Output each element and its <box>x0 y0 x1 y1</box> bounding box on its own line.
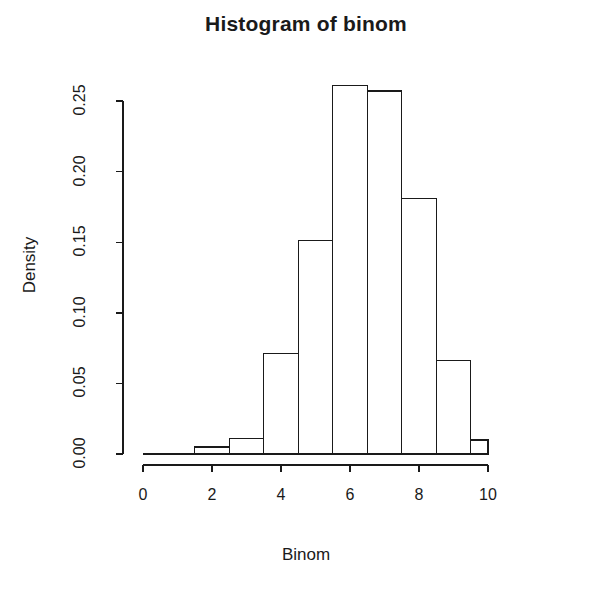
histogram-bar <box>367 91 402 454</box>
histogram-bar <box>471 440 488 454</box>
y-tick-label: 0.00 <box>71 423 89 483</box>
plot-canvas <box>0 0 612 600</box>
axes-group <box>116 101 488 472</box>
x-tick-label: 10 <box>458 486 518 504</box>
y-tick-label: 0.05 <box>71 352 89 412</box>
x-tick-label: 8 <box>389 486 449 504</box>
histogram-bar <box>298 241 333 454</box>
histogram-bars <box>143 85 488 454</box>
x-tick-label: 2 <box>182 486 242 504</box>
x-tick-label: 4 <box>251 486 311 504</box>
histogram-plot: Histogram of binom Density Binom 0.000.0… <box>0 0 612 600</box>
histogram-bar <box>195 447 230 454</box>
histogram-bar <box>436 361 471 454</box>
histogram-bar <box>229 438 264 454</box>
x-axis-line <box>143 465 488 472</box>
y-tick-label: 0.20 <box>71 141 89 201</box>
y-axis-line <box>116 101 123 454</box>
y-tick-label: 0.10 <box>71 282 89 342</box>
y-tick-label: 0.25 <box>71 70 89 130</box>
x-tick-label: 6 <box>320 486 380 504</box>
histogram-bar <box>264 354 299 454</box>
histogram-bar <box>402 198 437 454</box>
histogram-bar <box>333 85 368 454</box>
y-tick-label: 0.15 <box>71 211 89 271</box>
x-tick-label: 0 <box>113 486 173 504</box>
